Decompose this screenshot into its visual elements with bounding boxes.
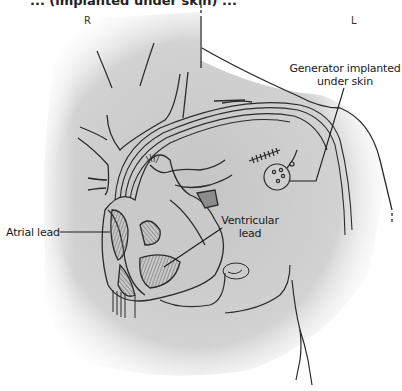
generator-label: Generator implanted under skin [286, 62, 402, 88]
atrial-lead-label: Atrial lead [6, 226, 60, 239]
left-side-label: L [351, 14, 356, 27]
generator-label-line1: Generator implanted [286, 62, 402, 75]
pacemaker-diagram: ... (implanted under skin) ... R L Gener… [0, 0, 402, 391]
ventricular-lead-label: Ventricular lead [218, 214, 282, 240]
chest-illustration [0, 0, 402, 391]
generator-label-line2: under skin [286, 75, 402, 88]
right-side-label: R [84, 14, 91, 27]
ventricular-lead-label-line2: lead [218, 227, 282, 240]
ventricular-lead-label-line1: Ventricular [218, 214, 282, 227]
figure-title-partial: ... (implanted under skin) ... [30, 0, 237, 8]
